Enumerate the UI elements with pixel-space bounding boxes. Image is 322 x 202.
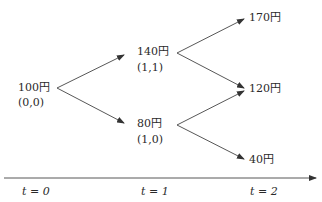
time-label-2: t = 2 — [250, 185, 278, 198]
node-n10-price: 80円 — [137, 117, 162, 130]
node-n22-price: 170円 — [249, 11, 281, 24]
node-n00-coord: (0,0) — [18, 96, 44, 109]
edge-n11-n22 — [177, 19, 244, 53]
edge-n10-n20 — [177, 125, 244, 159]
edge-n00-n10 — [57, 88, 124, 123]
node-n10-coord: (1,0) — [137, 133, 163, 146]
node-n11-price: 140円 — [137, 45, 169, 58]
node-n11-coord: (1,1) — [137, 61, 163, 74]
time-label-1: t = 1 — [141, 185, 169, 198]
edge-n00-n11 — [57, 55, 124, 88]
tree-diagram — [0, 0, 322, 202]
node-n21-price: 120円 — [249, 82, 281, 95]
edge-n10-n21 — [177, 91, 244, 125]
time-label-0: t = 0 — [22, 185, 50, 198]
node-n00-price: 100円 — [18, 81, 50, 94]
node-n20-price: 40円 — [249, 153, 274, 166]
edge-n11-n21 — [177, 53, 244, 88]
